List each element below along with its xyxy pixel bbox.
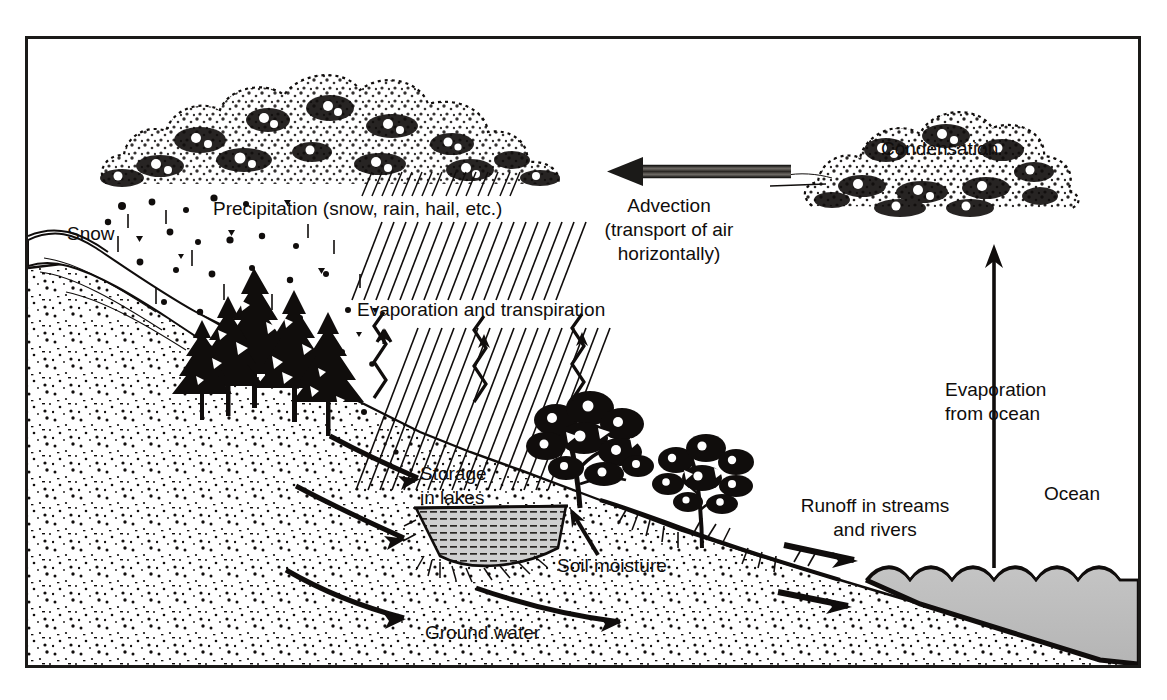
label-advection-line3: horizontally) xyxy=(618,243,720,264)
hydrologic-cycle-figure: Snow Precipitation (snow, rain, hail, et… xyxy=(0,0,1167,700)
hydrologic-cycle-diagram: Snow Precipitation (snow, rain, hail, et… xyxy=(0,0,1167,700)
label-runoff-line2: and rivers xyxy=(833,519,916,540)
label-storage-line1: Storage xyxy=(420,463,487,484)
label-evaporation-from-ocean-line2: from ocean xyxy=(945,403,1040,424)
label-storage-line2: in lakes xyxy=(420,487,484,508)
label-runoff-line1: Runoff in streams xyxy=(801,495,950,516)
label-precipitation: Precipitation (snow, rain, hail, etc.) xyxy=(213,198,502,219)
label-snow: Snow xyxy=(67,223,115,244)
label-condensation: Condensation xyxy=(881,138,998,159)
label-evaporation-transpiration: Evaporation and transpiration xyxy=(357,299,605,320)
label-ground-water: Ground water xyxy=(425,622,541,643)
label-advection-line1: Advection xyxy=(627,195,710,216)
label-soil-moisture: Soil moisture xyxy=(557,555,667,576)
label-ocean: Ocean xyxy=(1044,483,1100,504)
label-evaporation-from-ocean-line1: Evaporation xyxy=(945,379,1046,400)
label-advection-line2: (transport of air xyxy=(605,219,734,240)
